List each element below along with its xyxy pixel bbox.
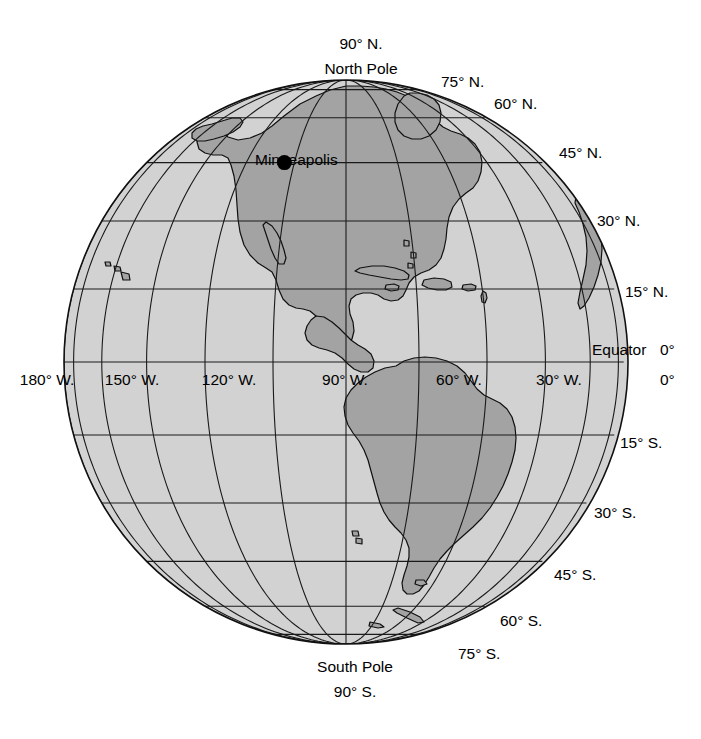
- label-lat-60n: 60° N.: [494, 95, 537, 113]
- label-south-pole: South Pole: [317, 658, 393, 676]
- label-90-south: 90° S.: [334, 683, 376, 701]
- land-jamaica: [385, 284, 399, 291]
- label-lat-15s: 15° S.: [620, 434, 662, 452]
- land-greenland: [395, 93, 441, 139]
- label-minneapolis: Minneapolis: [255, 151, 338, 169]
- label-equator: Equator: [592, 341, 646, 359]
- land-falklands: [415, 580, 427, 586]
- label-lon-90w: 90° W.: [322, 371, 368, 389]
- label-lat-45s: 45° S.: [554, 566, 596, 584]
- label-lon-60w: 60° W.: [436, 371, 482, 389]
- label-90-north: 90° N.: [339, 35, 382, 53]
- label-north-pole: North Pole: [324, 60, 397, 78]
- label-lon-180w: 180° W.: [20, 371, 74, 389]
- label-lat-75n: 75° N.: [441, 73, 484, 91]
- label-lat-30s: 30° S.: [594, 504, 636, 522]
- globe-figure: 90° N. North Pole 75° N. 60° N. 45° N. 3…: [0, 0, 701, 739]
- label-lon-150w: 150° W.: [105, 371, 159, 389]
- land-puerto-rico: [462, 284, 476, 291]
- label-lon-30w: 30° W.: [536, 371, 582, 389]
- label-lat-30n: 30° N.: [597, 212, 640, 230]
- label-lat-60s: 60° S.: [500, 612, 542, 630]
- label-lat-75s: 75° S.: [458, 645, 500, 663]
- label-lat-15n: 15° N.: [625, 283, 668, 301]
- globe-svg: [0, 0, 701, 739]
- label-equator-degrees: 0°: [660, 341, 675, 359]
- label-lon-120w: 120° W.: [202, 371, 256, 389]
- label-lat-45n: 45° N.: [559, 144, 602, 162]
- label-lon-0: 0°: [660, 371, 675, 389]
